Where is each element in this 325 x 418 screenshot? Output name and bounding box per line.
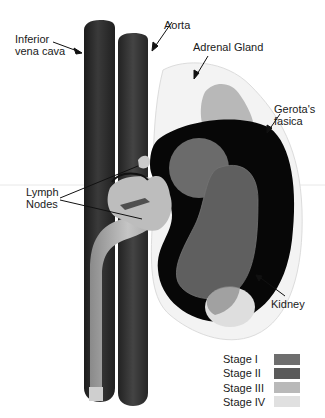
label-gerotas-fascia: Gerota's fasica bbox=[274, 103, 315, 127]
label-lymph-nodes: Lymph Nodes bbox=[26, 186, 59, 210]
legend-item-stage-3: Stage III bbox=[223, 381, 323, 395]
legend-item-stage-4: Stage IV bbox=[223, 395, 323, 409]
legend-label: Stage I bbox=[223, 353, 271, 365]
legend-label: Stage IV bbox=[223, 396, 271, 408]
label-adrenal-gland: Adrenal Gland bbox=[193, 41, 263, 53]
vein-tip bbox=[89, 387, 103, 401]
label-aorta: Aorta bbox=[164, 19, 190, 31]
legend-swatch-stage-1 bbox=[274, 354, 300, 365]
legend-item-stage-1: Stage I bbox=[223, 352, 323, 366]
legend-label: Stage III bbox=[223, 382, 271, 394]
legend-swatch-stage-4 bbox=[274, 396, 300, 407]
legend: Stage I Stage II Stage III Stage IV bbox=[223, 352, 323, 409]
legend-item-stage-2: Stage II bbox=[223, 366, 323, 380]
legend-swatch-stage-2 bbox=[274, 368, 300, 379]
legend-swatch-stage-3 bbox=[274, 382, 300, 393]
label-inferior-vena-cava: Inferior vena cava bbox=[15, 33, 65, 57]
legend-label: Stage II bbox=[223, 367, 271, 379]
label-kidney: Kidney bbox=[271, 298, 305, 310]
